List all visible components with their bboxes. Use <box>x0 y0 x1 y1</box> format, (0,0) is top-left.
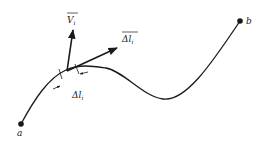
vector-v-label: Vi <box>67 15 76 26</box>
point-b-label: b <box>246 16 252 26</box>
segment-arrow-left <box>53 86 60 89</box>
vector-v-arrow <box>67 30 73 71</box>
vector-dl-arrow <box>67 48 117 71</box>
point-a-dot <box>18 121 24 127</box>
line-integral-diagram: a b Vi Δli Δli <box>0 0 267 141</box>
vector-dl-label: Δli <box>121 34 133 45</box>
segment-label: Δli <box>71 90 83 101</box>
point-b-dot <box>237 18 243 24</box>
point-a-label: a <box>17 128 22 138</box>
segment-arrow-right <box>80 72 88 74</box>
